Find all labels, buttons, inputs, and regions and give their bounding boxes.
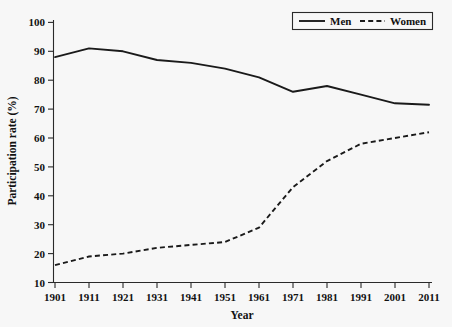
x-tick-label-1991: 1991 xyxy=(350,291,372,303)
y-tick-label-10: 10 xyxy=(34,277,46,289)
y-axis-title: Participation rate (%) xyxy=(6,96,19,205)
y-tick-label-80: 80 xyxy=(34,74,46,86)
y-tick-label-20: 20 xyxy=(34,248,46,260)
x-tick-label-1971: 1971 xyxy=(282,291,304,303)
y-tick-label-70: 70 xyxy=(34,103,46,115)
y-tick-label-50: 50 xyxy=(34,161,46,173)
y-tick-label-30: 30 xyxy=(34,219,46,231)
x-tick-label-1951: 1951 xyxy=(214,291,236,303)
legend-label-women[interactable]: Women xyxy=(390,15,426,27)
y-tick-label-40: 40 xyxy=(34,190,46,202)
x-tick-label-1911: 1911 xyxy=(78,291,99,303)
chart-legend[interactable]: Men Women xyxy=(293,13,433,30)
x-tick-label-2001: 2001 xyxy=(384,291,406,303)
x-tick-label-1921: 1921 xyxy=(112,291,134,303)
chart-canvas: 100 90 80 70 60 50 40 30 20 10 1901 xyxy=(0,0,452,327)
x-tick-label-1901: 1901 xyxy=(44,291,66,303)
x-tick-label-1931: 1931 xyxy=(146,291,168,303)
chart-background xyxy=(0,0,452,327)
y-tick-label-90: 90 xyxy=(34,45,46,57)
x-tick-label-1981: 1981 xyxy=(316,291,338,303)
legend-label-men[interactable]: Men xyxy=(330,15,351,27)
y-tick-label-60: 60 xyxy=(34,132,46,144)
participation-rate-line-chart: 100 90 80 70 60 50 40 30 20 10 1901 xyxy=(0,0,452,327)
x-tick-label-1961: 1961 xyxy=(248,291,270,303)
x-tick-label-2011: 2011 xyxy=(418,291,439,303)
x-axis-title: Year xyxy=(231,309,254,321)
y-tick-label-100: 100 xyxy=(29,16,46,28)
x-tick-label-1941: 1941 xyxy=(180,291,202,303)
